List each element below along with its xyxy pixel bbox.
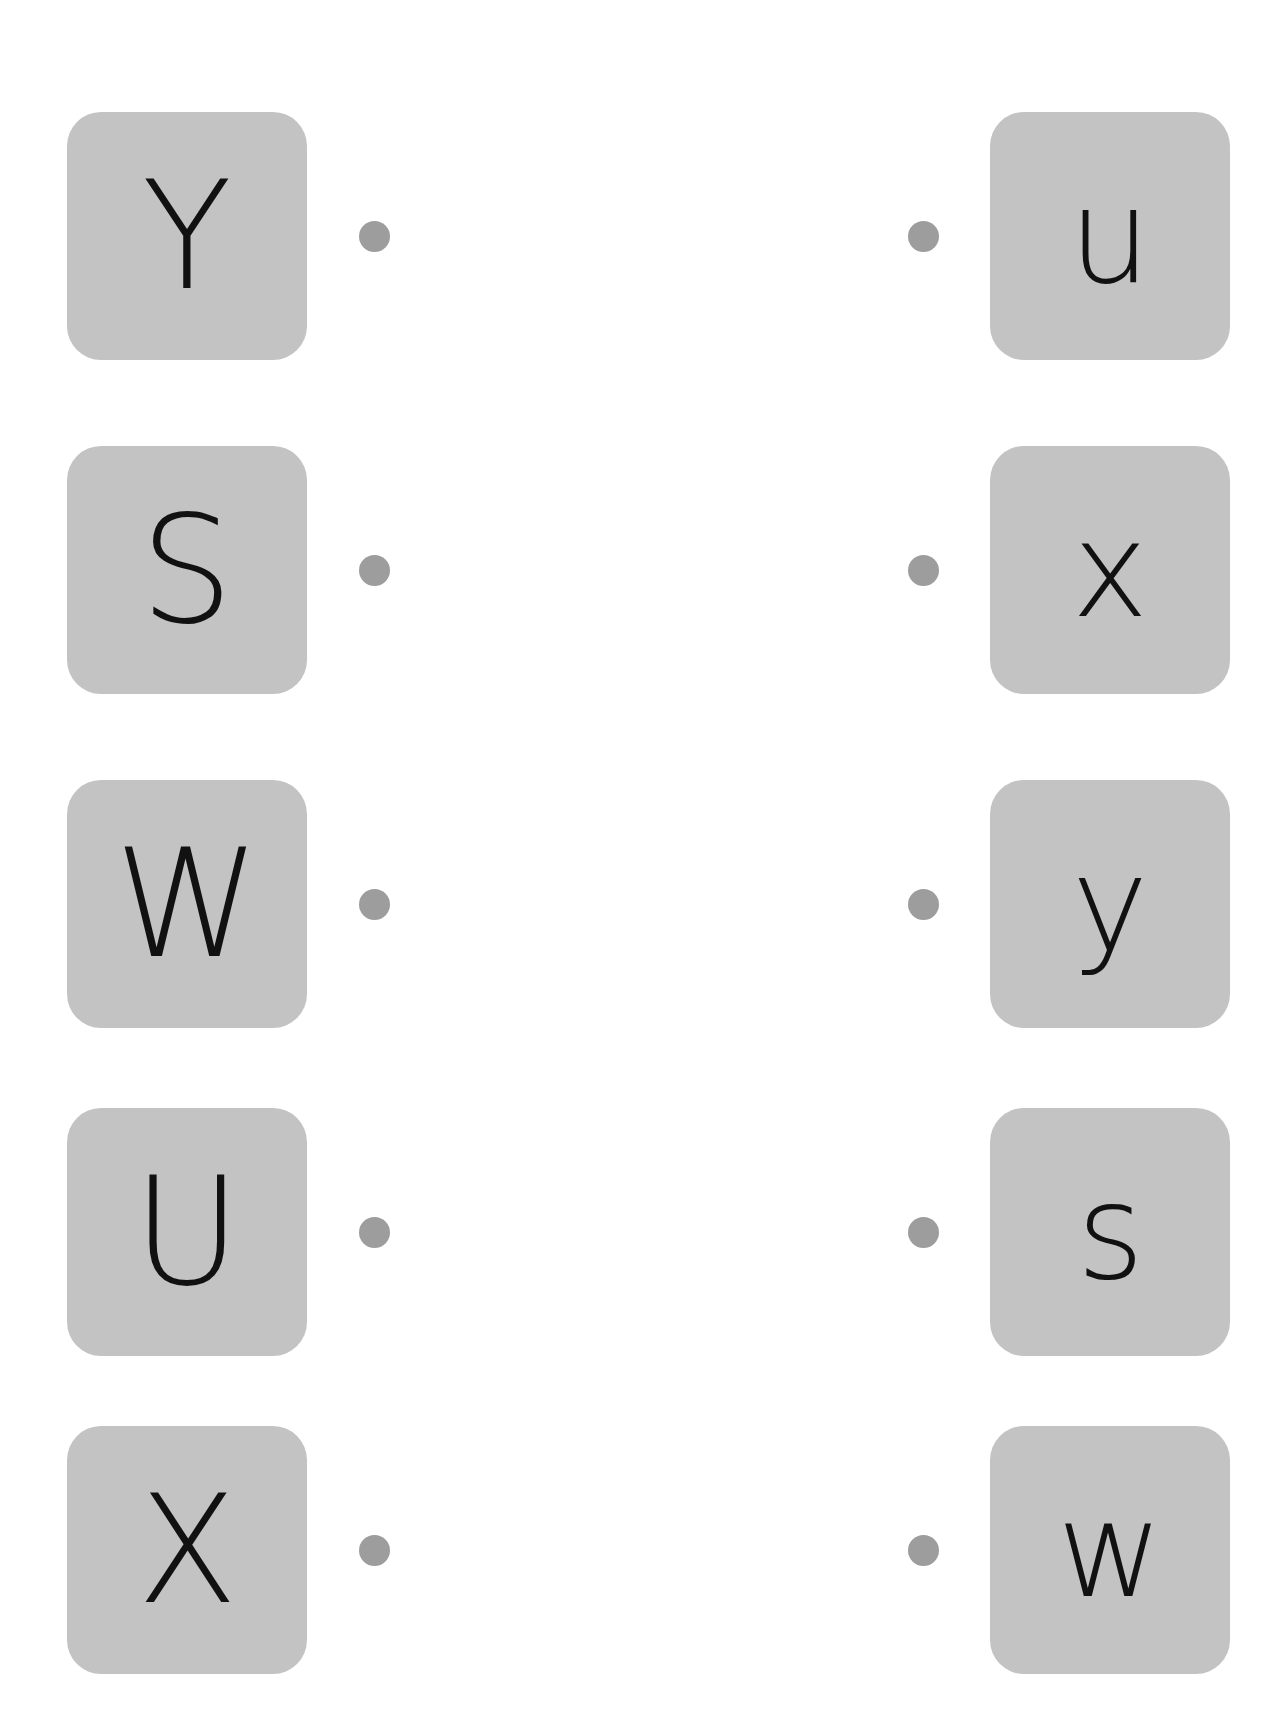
- match-row: X w: [0, 1426, 1283, 1674]
- worksheet-canvas: Y u S x W y U s: [0, 0, 1283, 1731]
- lowercase-letter-card[interactable]: x: [990, 446, 1230, 694]
- left-connector-dot[interactable]: [359, 555, 390, 586]
- right-connector-dot[interactable]: [908, 1217, 939, 1248]
- lowercase-letter-glyph: w: [1057, 1484, 1163, 1616]
- match-row: S x: [0, 446, 1283, 694]
- uppercase-letter-card[interactable]: Y: [67, 112, 307, 360]
- uppercase-letter-glyph: S: [140, 495, 233, 645]
- uppercase-letter-glyph: W: [114, 829, 259, 979]
- uppercase-letter-card[interactable]: X: [67, 1426, 307, 1674]
- uppercase-letter-glyph: X: [137, 1475, 238, 1625]
- right-connector-dot[interactable]: [908, 1535, 939, 1566]
- left-connector-dot[interactable]: [359, 221, 390, 252]
- match-row: Y u: [0, 112, 1283, 360]
- uppercase-letter-card[interactable]: S: [67, 446, 307, 694]
- right-connector-dot[interactable]: [908, 221, 939, 252]
- uppercase-letter-card[interactable]: W: [67, 780, 307, 1028]
- lowercase-letter-glyph: y: [1072, 838, 1149, 970]
- uppercase-letter-glyph: Y: [142, 161, 232, 311]
- uppercase-letter-card[interactable]: U: [67, 1108, 307, 1356]
- right-connector-dot[interactable]: [908, 555, 939, 586]
- left-connector-dot[interactable]: [359, 1535, 390, 1566]
- match-row: U s: [0, 1108, 1283, 1356]
- lowercase-letter-card[interactable]: w: [990, 1426, 1230, 1674]
- left-connector-dot[interactable]: [359, 1217, 390, 1248]
- lowercase-letter-card[interactable]: u: [990, 112, 1230, 360]
- right-connector-dot[interactable]: [908, 889, 939, 920]
- uppercase-letter-glyph: U: [133, 1157, 241, 1307]
- lowercase-letter-glyph: x: [1072, 504, 1149, 636]
- match-row: W y: [0, 780, 1283, 1028]
- lowercase-letter-card[interactable]: s: [990, 1108, 1230, 1356]
- left-connector-dot[interactable]: [359, 889, 390, 920]
- lowercase-letter-glyph: u: [1069, 170, 1151, 302]
- lowercase-letter-card[interactable]: y: [990, 780, 1230, 1028]
- lowercase-letter-glyph: s: [1076, 1166, 1143, 1298]
